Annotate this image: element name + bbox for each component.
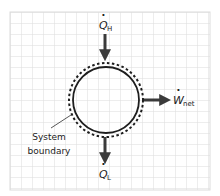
work-out-subscript: net [183,100,195,108]
work-out-dot: · [177,85,181,96]
heat-engine-diagram: Q H · W net · Q L · System boundary [0,0,220,196]
heat-in-dot: · [102,10,106,21]
heat-out-dot: · [102,159,106,170]
heat-in-subscript: H [107,25,112,33]
heat-out-subscript: L [107,174,111,182]
boundary-label-line2: boundary [28,146,72,156]
system-circle [73,67,139,133]
boundary-label-line1: System [32,132,66,142]
